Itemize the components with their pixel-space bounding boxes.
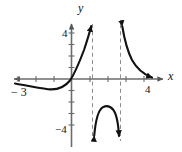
curve-left-branch [15, 26, 91, 89]
y-tick-label-4: 4 [62, 28, 68, 39]
x-axis-label: x [168, 70, 173, 82]
x-tick-label-4: 4 [145, 84, 151, 95]
curve-right-branch [122, 26, 152, 78]
graph-canvas [0, 0, 182, 152]
curve-middle-branch [94, 106, 119, 136]
x-tick-label-negative-3: − 3 [11, 86, 27, 98]
y-tick-label-negative-4: −4 [55, 124, 67, 135]
math-graph-figure: y x 4 −4 − 3 4 [0, 0, 182, 152]
x-axis-left-arrowhead [14, 76, 20, 82]
y-axis-label: y [78, 2, 83, 14]
axes-group [14, 24, 163, 147]
